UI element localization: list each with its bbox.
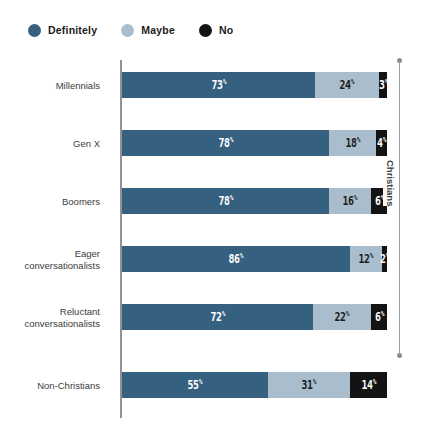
bar-value-definitely: 78% [218,137,232,149]
chart-row: Boomers 78% 16% 6% [0,188,424,214]
bar-value-maybe: 24% [340,79,354,91]
legend-item-maybe[interactable]: Maybe [121,24,175,37]
category-label-millennials: Millennials [0,80,100,92]
stacked-bar-boomers: 78% 16% 6% [122,188,387,214]
bracket-cap-bottom [397,353,402,358]
category-label-gen-x: Gen X [0,138,100,150]
bar-segment-maybe[interactable]: 18% [329,130,377,156]
bar-segment-no[interactable]: 4% [376,130,387,156]
chart-row: Reluctant conversationalists 72% 22% 6% [0,304,424,330]
legend-label-definitely: Definitely [48,24,97,36]
bar-value-definitely: 86% [229,253,243,265]
bracket-line [399,60,400,356]
bar-segment-no[interactable]: 3% [379,72,387,98]
chart-row: Eager conversationalists 86% 12% 2% [0,246,424,272]
bar-value-no: 3% [379,79,388,91]
bracket-label-christians: Christians [383,160,398,206]
y-axis-line [120,60,122,418]
bar-value-definitely: 78% [218,195,232,207]
legend-label-maybe: Maybe [141,24,175,36]
bar-segment-definitely[interactable]: 72% [122,304,313,330]
bar-segment-definitely[interactable]: 55% [122,372,268,398]
bar-segment-maybe[interactable]: 31% [268,372,350,398]
bar-value-maybe: 22% [335,311,349,323]
bar-segment-no[interactable]: 2% [382,246,387,272]
chart-row: Gen X 78% 18% 4% [0,130,424,156]
bar-segment-definitely[interactable]: 78% [122,188,329,214]
category-label-eager-conversationalists: Eager conversationalists [0,248,100,271]
bar-segment-maybe[interactable]: 16% [329,188,371,214]
legend-label-no: No [219,24,233,36]
bar-value-definitely: 55% [188,379,202,391]
chart-row: Millennials 73% 24% 3% [0,72,424,98]
bar-value-definitely: 72% [210,311,224,323]
bar-value-maybe: 31% [302,379,316,391]
bar-value-maybe: 18% [345,137,359,149]
bar-segment-no[interactable]: 6% [371,304,387,330]
chart-row: Non-Christians 55% 31% 14% [0,372,424,398]
bar-value-maybe: 12% [359,253,373,265]
bar-value-no: 2% [380,253,389,265]
stacked-bar-reluctant-conversationalists: 72% 22% 6% [122,304,387,330]
bar-segment-maybe[interactable]: 24% [315,72,379,98]
chart-container: Definitely Maybe No Millennials 73% 24% [0,0,424,430]
stacked-bar-millennials: 73% 24% 3% [122,72,387,98]
bar-segment-maybe[interactable]: 12% [350,246,382,272]
bar-value-definitely: 73% [211,79,225,91]
christians-bracket [398,60,401,356]
bar-value-maybe: 16% [343,195,357,207]
bracket-cap-top [397,58,402,63]
bar-segment-no[interactable]: 14% [350,372,387,398]
plot-area: Millennials 73% 24% 3% Gen X 78% [0,52,424,420]
stacked-bar-non-christians: 55% 31% 14% [122,372,387,398]
bar-segment-definitely[interactable]: 78% [122,130,329,156]
bar-segment-definitely[interactable]: 73% [122,72,315,98]
bar-segment-definitely[interactable]: 86% [122,246,350,272]
chart-legend: Definitely Maybe No [28,22,257,38]
legend-item-no[interactable]: No [199,24,233,37]
stacked-bar-eager-conversationalists: 86% 12% 2% [122,246,387,272]
circle-icon [199,24,212,37]
category-label-non-christians: Non-Christians [0,380,100,392]
circle-icon [121,24,134,37]
bar-segment-maybe[interactable]: 22% [313,304,371,330]
bar-value-no: 14% [361,379,375,391]
legend-item-definitely[interactable]: Definitely [28,24,97,37]
circle-icon [28,24,41,37]
stacked-bar-gen-x: 78% 18% 4% [122,130,387,156]
category-label-boomers: Boomers [0,196,100,208]
bar-value-no: 6% [375,311,384,323]
category-label-reluctant-conversationalists: Reluctant conversationalists [0,306,100,329]
bar-value-no: 4% [377,137,386,149]
